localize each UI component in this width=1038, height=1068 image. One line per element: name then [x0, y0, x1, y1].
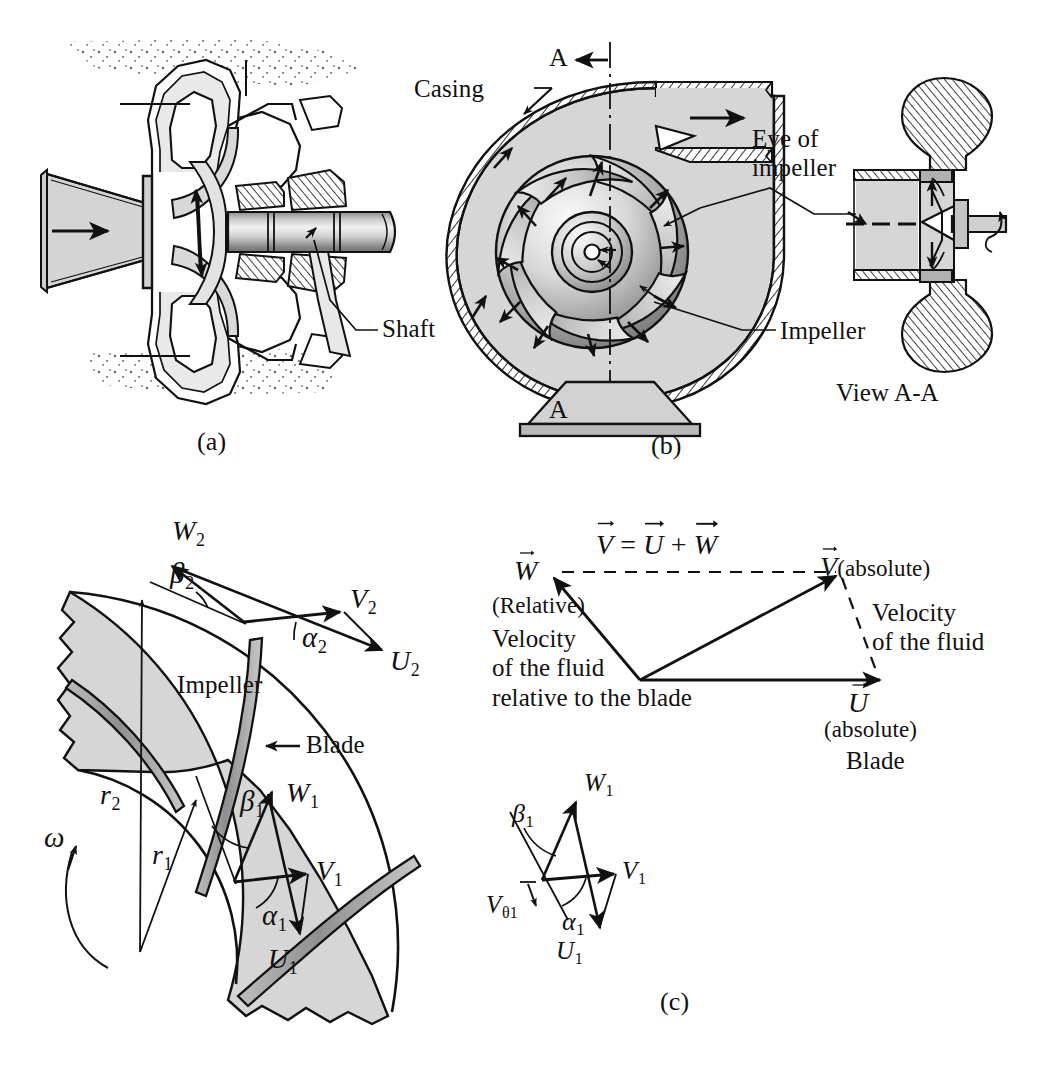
panel-c-label: (c) — [660, 988, 689, 1016]
Vtheta1-base: V — [486, 891, 501, 918]
Vtheta1-symbol: Vθ1 — [486, 892, 518, 922]
alpha2-base: α — [302, 621, 317, 653]
U2-symbol: U2 — [390, 646, 420, 680]
vector-equation: V = U + W — [596, 530, 717, 560]
eq-equals: = — [620, 529, 636, 560]
alpha1-sub: 1 — [277, 914, 287, 935]
panel-b-drawing — [446, 42, 1006, 436]
panel-c-drawing — [58, 566, 880, 1024]
detail-W1-symbol: W1 — [584, 770, 614, 800]
eye-of-impeller-line2: impeller — [752, 153, 836, 182]
casing-label: Casing — [414, 76, 484, 103]
section-mark-a-top: A — [549, 44, 568, 72]
eye-of-impeller-line1: Eye of — [752, 124, 836, 153]
detail-W1-sub: 1 — [605, 782, 614, 799]
V2-sub: 2 — [367, 598, 377, 618]
view-aa-label: View A-A — [836, 380, 939, 407]
detail-U1-base: U — [556, 937, 574, 964]
shaft-center — [585, 245, 600, 260]
alpha1-base: α — [262, 899, 277, 931]
r1-sub: 1 — [163, 854, 173, 874]
relative-line1: Velocity — [492, 624, 692, 653]
V-absolute-note: (absolute) — [837, 556, 930, 581]
detail-U1-symbol: U1 — [556, 938, 583, 968]
eq-U: U — [643, 529, 663, 560]
relative-line2: of the fluid — [492, 653, 692, 682]
absolute-line1: Velocity — [872, 598, 984, 627]
eq-V-vec: V — [596, 530, 613, 560]
U-absolute-note: (absolute) — [824, 718, 917, 742]
detail-alpha1-sub: 1 — [576, 920, 585, 939]
impeller-label-b: Impeller — [780, 318, 865, 345]
absolute-line2: of the fluid — [872, 627, 984, 656]
detail-U1-sub: 1 — [574, 950, 583, 967]
beta1-sub: 1 — [255, 800, 265, 821]
beta1-base: β — [240, 785, 255, 817]
detail-W1-base: W — [584, 769, 605, 796]
W1-sub: 1 — [309, 792, 319, 812]
detail-beta1-arc — [524, 828, 556, 856]
eq-plus: + — [671, 529, 687, 560]
Vtheta1-marker — [528, 884, 536, 906]
V1-sub: 1 — [333, 870, 343, 890]
W-base: W — [514, 555, 537, 586]
W2-base: W — [172, 515, 195, 546]
W2-symbol: W2 — [172, 516, 205, 550]
eq-U-vec: U — [643, 530, 663, 560]
shaft-label: Shaft — [382, 316, 435, 343]
V2-symbol: V2 — [350, 584, 377, 618]
relative-line3: relative to the blade — [492, 683, 692, 712]
detail-beta1-sub: 1 — [525, 812, 534, 831]
blade-text-label: Blade — [846, 748, 905, 775]
alpha2-sub: 2 — [317, 636, 327, 657]
relative-velocity-text: Velocity of the fluid relative to the bl… — [492, 624, 692, 712]
detail-V1-vector — [542, 874, 614, 880]
W-symbol: W — [514, 556, 537, 586]
detail-alpha1-arc — [562, 878, 586, 906]
W-relative-note: (Relative) — [492, 594, 585, 618]
panel-a-drawing — [41, 38, 395, 404]
r2-sub: 2 — [111, 794, 121, 814]
W1-symbol: W1 — [286, 778, 319, 812]
r2-base: r — [100, 779, 111, 810]
alpha2-arc — [294, 622, 296, 640]
alpha1-symbol: α1 — [262, 900, 287, 935]
section-mark-a-bottom: A — [549, 396, 568, 424]
detail-beta1-symbol: β1 — [512, 800, 534, 831]
eq-V: V — [596, 529, 613, 560]
detail-alpha1-base: α — [562, 907, 576, 936]
panel-b-label: (b) — [651, 432, 682, 460]
blade-label: Blade — [306, 732, 365, 759]
beta1-symbol: β1 — [240, 786, 264, 821]
U-symbol-group: U — [848, 688, 868, 718]
absolute-velocity-text: Velocity of the fluid — [872, 598, 984, 657]
U2-sub: 2 — [410, 660, 420, 680]
detail-V1-sub: 1 — [637, 870, 646, 887]
r1-symbol: r1 — [152, 840, 173, 874]
figure-root: Shaft (a) Casing Eye of impeller Impelle… — [0, 0, 1038, 1068]
omega-rotation-arc — [66, 846, 108, 968]
Vtheta1-sub: θ1 — [501, 904, 517, 921]
beta2-symbol: β2 — [170, 558, 194, 593]
detail-alpha1-symbol: α1 — [562, 908, 585, 939]
r2-symbol: r2 — [100, 780, 121, 814]
view-aa-drawing — [846, 78, 1006, 372]
r1-radius-line — [140, 800, 196, 952]
V-symbol-group: V(absolute) — [820, 552, 930, 582]
V-base: V — [820, 551, 837, 582]
eq-W: W — [694, 529, 717, 560]
detail-W1-vector — [542, 802, 576, 880]
beta2-base: β — [170, 557, 185, 589]
alpha2-symbol: α2 — [302, 622, 327, 657]
beta2-reference-line — [150, 582, 246, 624]
U1-sub: 1 — [288, 958, 298, 978]
V1-symbol: V1 — [316, 856, 343, 890]
U1-symbol: U1 — [268, 944, 298, 978]
beta2-sub: 2 — [185, 572, 195, 593]
U1-base: U — [268, 943, 288, 974]
eq-W-vec: W — [694, 530, 717, 560]
detail-V1-base: V — [622, 857, 637, 884]
impeller-label-c: Impeller — [177, 672, 262, 699]
V2-base: V — [350, 583, 367, 614]
eye-of-impeller-label: Eye of impeller — [752, 124, 836, 183]
